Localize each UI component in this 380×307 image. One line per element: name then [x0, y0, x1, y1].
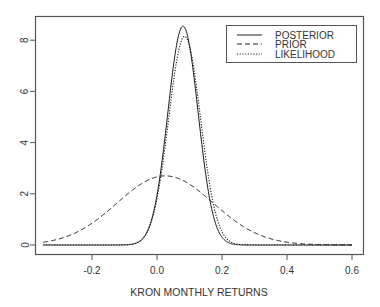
y-tick-label: 6 [20, 88, 31, 94]
x-tick-label: 0.2 [215, 265, 229, 276]
chart-canvas: 02468 -0.20.00.20.40.6 POSTERIOR PRIOR L… [0, 0, 380, 307]
density-chart: 02468 -0.20.00.20.40.6 POSTERIOR PRIOR L… [0, 0, 380, 307]
y-tick-label: 4 [20, 139, 31, 145]
x-tick-label: 0.6 [345, 265, 359, 276]
curve-prior [43, 176, 352, 245]
x-axis: -0.20.00.20.40.6 [83, 255, 359, 277]
x-axis-label: KRON MONTHLY RETURNS [130, 286, 267, 298]
y-tick-label: 2 [20, 191, 31, 197]
legend-label-likelihood: LIKELIHOOD [275, 49, 335, 60]
x-tick-label: -0.2 [83, 265, 101, 276]
y-tick-label: 8 [20, 37, 31, 43]
curve-likelihood [43, 36, 352, 245]
legend: POSTERIOR PRIOR LIKELIHOOD [227, 26, 357, 63]
y-axis: 02468 [20, 37, 36, 248]
x-tick-label: 0.4 [280, 265, 294, 276]
y-tick-label: 0 [20, 242, 31, 248]
x-tick-label: 0.0 [150, 265, 164, 276]
